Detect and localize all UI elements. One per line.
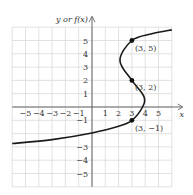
x-tick-label: −4 bbox=[33, 109, 45, 118]
x-tick-label: −5 bbox=[20, 109, 32, 118]
y-tick-label: −1 bbox=[76, 116, 88, 125]
x-tick-label: 1 bbox=[103, 109, 108, 118]
y-tick-label: 3 bbox=[83, 63, 88, 72]
data-point bbox=[130, 38, 135, 43]
y-tick-label: 5 bbox=[83, 37, 88, 46]
y-tick-label: 1 bbox=[83, 90, 88, 99]
data-point bbox=[130, 118, 135, 123]
point-label: (3, −1) bbox=[135, 124, 163, 133]
y-tick-label: −4 bbox=[76, 156, 88, 165]
x-tick-label: −2 bbox=[60, 109, 72, 118]
x-tick-label: 3 bbox=[129, 109, 134, 118]
x-tick-label: 2 bbox=[116, 109, 121, 118]
data-point bbox=[130, 78, 135, 83]
x-tick-label: 5 bbox=[156, 109, 161, 118]
y-axis-label: y or f(x) bbox=[55, 15, 88, 24]
x-tick-label: 4 bbox=[143, 109, 148, 118]
y-tick-label: 4 bbox=[83, 50, 88, 59]
x-axis-label: x bbox=[180, 110, 185, 119]
point-label: (3, 2) bbox=[135, 83, 157, 92]
graph: −5−4−3−2−11234554321−1−3−4−5xy or f(x)(3… bbox=[0, 0, 193, 195]
x-tick-label: −3 bbox=[46, 109, 58, 118]
y-tick-label: 2 bbox=[83, 76, 88, 85]
y-tick-label: −5 bbox=[76, 170, 88, 179]
y-tick-label: −3 bbox=[76, 143, 88, 152]
point-label: (3, 5) bbox=[135, 44, 157, 53]
